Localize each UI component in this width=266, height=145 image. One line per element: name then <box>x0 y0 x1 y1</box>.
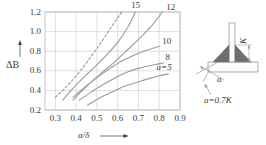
relation-label: a=0.7K <box>204 96 232 105</box>
throat-label: a <box>217 75 222 84</box>
web-plate <box>229 23 235 62</box>
fillet-weld-left <box>213 45 229 62</box>
weld-diagram-svg <box>0 0 266 145</box>
figure-root: 0.20.40.60.81.01.2 0.30.40.50.60.70.80.9… <box>0 0 266 145</box>
k-label: K <box>239 38 248 44</box>
